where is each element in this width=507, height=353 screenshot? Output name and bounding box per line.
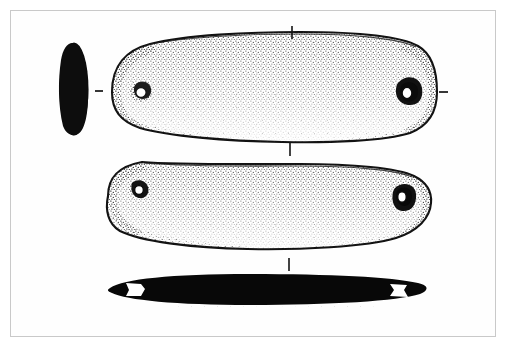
perforation-right-obverse	[396, 77, 422, 105]
edge-profile-view	[108, 274, 427, 309]
perforation-left-reverse	[130, 180, 149, 198]
section-view	[59, 43, 89, 136]
perforation-right-reverse	[392, 184, 416, 211]
drawing-plate	[0, 0, 507, 353]
obverse-view	[108, 30, 443, 146]
artifact-figure	[0, 0, 507, 353]
reverse-view	[104, 160, 436, 256]
